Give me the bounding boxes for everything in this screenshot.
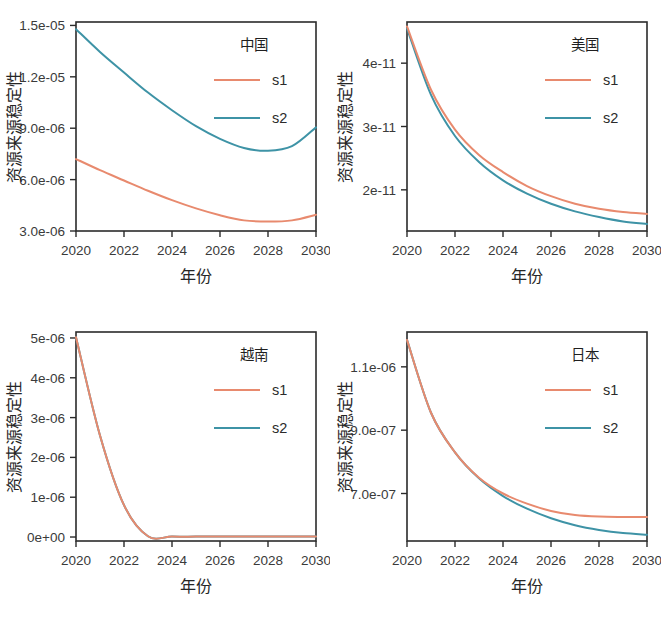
plot-area-2: 0e+001e-062e-063e-064e-065e-062020202220… <box>0 310 330 619</box>
y-tick-label: 2e-11 <box>362 183 396 198</box>
panel-usa: 2e-113e-114e-11202020222024202620282030年… <box>331 0 661 309</box>
x-tick-label: 2020 <box>61 243 91 258</box>
x-axis-title: 年份 <box>180 268 212 285</box>
panel-vietnam: 0e+001e-062e-063e-064e-065e-062020202220… <box>0 310 330 619</box>
y-tick-label: 1e-06 <box>30 490 65 505</box>
x-tick-label: 2028 <box>253 553 283 568</box>
x-tick-label: 2026 <box>205 243 235 258</box>
legend-title: 越南 <box>240 347 268 363</box>
x-tick-label: 2030 <box>631 243 660 258</box>
x-tick-label: 2022 <box>109 243 139 258</box>
legend: 越南s1s2 <box>214 347 287 436</box>
series-group <box>407 339 647 534</box>
legend: 日本s1s2 <box>545 347 618 436</box>
x-tick-label: 2020 <box>391 553 421 568</box>
x-axis: 202020222024202620282030 <box>391 231 660 258</box>
y-axis: 2e-113e-114e-11 <box>362 56 407 198</box>
y-axis: 7.0e-079.0e-071.1e-06 <box>350 359 407 501</box>
plot-area-1: 2e-113e-114e-11202020222024202620282030年… <box>331 0 661 309</box>
y-axis: 3.0e-066.0e-069.0e-061.2e-051.5e-05 <box>19 18 76 239</box>
x-tick-label: 2028 <box>583 553 613 568</box>
legend-label-s1: s1 <box>272 382 287 398</box>
series-line-s1 <box>76 337 316 538</box>
x-axis: 202020222024202620282030 <box>61 541 330 568</box>
x-tick-label: 2024 <box>157 243 188 258</box>
x-tick-label: 2020 <box>391 243 421 258</box>
x-tick-label: 2024 <box>487 243 518 258</box>
y-axis-title: 资源来源稳定性 <box>6 71 23 183</box>
x-tick-label: 2024 <box>487 553 518 568</box>
x-tick-label: 2020 <box>61 553 91 568</box>
legend-label-s1: s1 <box>272 72 287 88</box>
y-axis-title: 资源来源稳定性 <box>6 380 23 492</box>
x-axis: 202020222024202620282030 <box>391 541 660 568</box>
series-group <box>76 337 316 538</box>
legend-label-s1: s1 <box>603 72 618 88</box>
legend: 中国s1s2 <box>214 37 287 126</box>
legend-label-s2: s2 <box>272 420 287 436</box>
legend-label-s2: s2 <box>272 110 287 126</box>
x-tick-label: 2022 <box>439 243 469 258</box>
y-axis-title: 资源来源稳定性 <box>337 380 354 492</box>
y-tick-label: 1.5e-05 <box>19 18 65 33</box>
legend-title: 日本 <box>571 347 599 363</box>
y-tick-label: 6.0e-06 <box>19 173 65 188</box>
x-tick-label: 2030 <box>631 553 660 568</box>
series-line-s2 <box>76 337 316 538</box>
x-tick-label: 2026 <box>535 553 565 568</box>
legend-title: 中国 <box>240 37 268 53</box>
y-tick-label: 2e-06 <box>30 450 65 465</box>
y-tick-label: 1.2e-05 <box>19 70 65 85</box>
x-tick-label: 2024 <box>157 553 188 568</box>
plot-area-0: 3.0e-066.0e-069.0e-061.2e-051.5e-0520202… <box>0 0 330 309</box>
y-tick-label: 5e-06 <box>30 330 65 345</box>
panel-china: 3.0e-066.0e-069.0e-061.2e-051.5e-0520202… <box>0 0 330 309</box>
x-tick-label: 2030 <box>301 243 330 258</box>
y-tick-label: 9.0e-07 <box>350 423 396 438</box>
plot-area-3: 7.0e-079.0e-071.1e-062020202220242026202… <box>331 310 661 619</box>
legend-label-s1: s1 <box>603 382 618 398</box>
y-axis-title: 资源来源稳定性 <box>337 71 354 183</box>
x-tick-label: 2026 <box>535 243 565 258</box>
x-tick-label: 2028 <box>253 243 283 258</box>
y-tick-label: 3e-11 <box>362 120 396 135</box>
panel-japan: 7.0e-079.0e-071.1e-062020202220242026202… <box>331 310 661 619</box>
series-line-s2 <box>407 28 647 224</box>
x-axis-title: 年份 <box>511 268 543 285</box>
x-tick-label: 2022 <box>109 553 139 568</box>
x-axis: 202020222024202620282030 <box>61 231 330 258</box>
y-tick-label: 1.1e-06 <box>350 359 396 374</box>
y-tick-label: 7.0e-07 <box>350 486 396 501</box>
legend-label-s2: s2 <box>603 420 618 436</box>
y-tick-label: 0e+00 <box>27 530 65 545</box>
x-tick-label: 2026 <box>205 553 235 568</box>
series-line-s1 <box>76 159 316 222</box>
x-axis-title: 年份 <box>180 578 212 595</box>
y-tick-label: 4e-06 <box>30 370 65 385</box>
series-line-s2 <box>407 339 647 534</box>
legend: 美国s1s2 <box>545 37 618 126</box>
legend-label-s2: s2 <box>603 110 618 126</box>
y-tick-label: 3.0e-06 <box>19 224 65 239</box>
x-tick-label: 2028 <box>583 243 613 258</box>
plot-frame <box>407 22 647 231</box>
legend-title: 美国 <box>571 37 599 53</box>
multi-panel-line-chart-figure: 3.0e-066.0e-069.0e-061.2e-051.5e-0520202… <box>0 0 661 619</box>
y-tick-label: 4e-11 <box>362 56 396 71</box>
x-axis-title: 年份 <box>511 578 543 595</box>
y-tick-label: 3e-06 <box>30 410 65 425</box>
plot-frame <box>76 332 316 541</box>
series-line-s2 <box>76 29 316 151</box>
x-tick-label: 2030 <box>301 553 330 568</box>
x-tick-label: 2022 <box>439 553 469 568</box>
y-axis: 0e+001e-062e-063e-064e-065e-06 <box>27 330 76 544</box>
y-tick-label: 9.0e-06 <box>19 121 65 136</box>
